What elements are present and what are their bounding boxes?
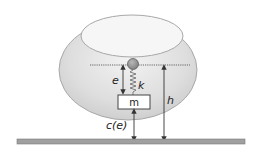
mass-label: m — [129, 97, 139, 108]
c-label: c(e) — [106, 119, 127, 132]
e-label: e — [112, 74, 119, 87]
inner-rim — [81, 15, 183, 57]
h-label: h — [167, 94, 174, 107]
k-label: k — [138, 79, 145, 92]
pivot-ball — [128, 59, 139, 70]
ground-bar — [17, 139, 245, 144]
spring-mass-diagram: e k m h c(e) — [0, 0, 258, 153]
